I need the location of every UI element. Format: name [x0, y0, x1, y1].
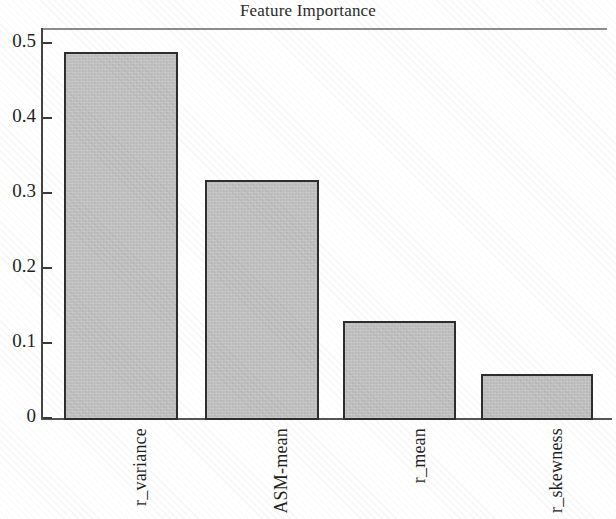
x-axis-tick-label-wrapper: ASM-mean: [271, 428, 292, 514]
chart-title: Feature Importance: [0, 1, 616, 21]
y-axis-tick: [43, 342, 52, 344]
y-axis-line: [41, 28, 43, 420]
x-axis-tick-label-wrapper: r_variance: [130, 428, 151, 506]
y-axis-tick: [43, 267, 52, 269]
bar: [64, 52, 178, 420]
y-axis-tick: [43, 117, 52, 119]
plot-top-spine: [41, 28, 607, 30]
y-axis-tick-label: 0.3: [0, 180, 36, 202]
y-axis-tick: [43, 42, 52, 44]
x-axis-tick-label-wrapper: r_mean: [409, 428, 430, 483]
y-axis-tick-label: 0: [0, 405, 36, 427]
bar: [481, 374, 593, 420]
x-axis-tick-label: r_skewness: [546, 428, 567, 513]
x-axis-tick-label: r_mean: [409, 428, 430, 483]
feature-importance-chart: Feature Importance 00.10.20.30.40.5 r_va…: [0, 0, 616, 519]
y-axis-tick: [43, 192, 52, 194]
x-axis-tick-label-wrapper: r_skewness: [546, 428, 567, 513]
bar: [343, 321, 456, 421]
bar: [205, 180, 319, 420]
y-axis-tick-label: 0.1: [0, 330, 36, 352]
y-axis-tick: [43, 417, 52, 419]
x-axis-tick-label: ASM-mean: [271, 428, 292, 514]
y-axis-tick-label: 0.5: [0, 30, 36, 52]
y-axis-tick-label: 0.2: [0, 255, 36, 277]
x-axis-tick-label: r_variance: [130, 428, 151, 506]
y-axis-tick-label: 0.4: [0, 105, 36, 127]
